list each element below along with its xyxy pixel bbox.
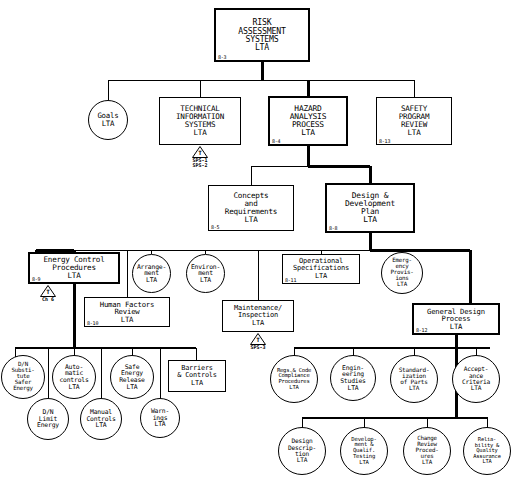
node-maint[interactable]: Maintenance/ Inspection LTA [222, 300, 294, 332]
node-auto[interactable]: Auto- matic controls LTA [52, 355, 96, 399]
node-manual[interactable]: Manual Controls LTA [80, 398, 122, 440]
node-code-energy: 8-9 [32, 277, 40, 282]
node-label-hazard: HAZARD ANALYSIS PROCESS LTA [290, 105, 326, 138]
fault-tree-diagram: RISK ASSESSMENT SYSTEMS LTA8-3Goals LTAT… [0, 0, 522, 485]
node-label-goals: Goals LTA [97, 112, 118, 127]
node-code-opspec: 8-11 [285, 278, 296, 283]
node-code-risk: 8-3 [218, 55, 226, 60]
transfer-reference: SPS-1 SPS-2 [192, 158, 207, 169]
transfer-symbol-tech-transfer[interactable]: TSPS-1 SPS-2 [192, 146, 208, 169]
node-energy[interactable]: Energy Control Procedures LTA8-9 [28, 252, 120, 284]
node-label-emerg: Emerg- ency Provis- ions LTA [390, 258, 413, 288]
transfer-letter: T [192, 150, 208, 156]
node-tech[interactable]: TECHNICAL INFORMATION SYSTEMS LTA [159, 97, 241, 145]
transfer-symbol-energy-transfer[interactable]: TCh 6 [40, 285, 56, 302]
node-label-energy: Energy Control Procedures LTA [43, 256, 104, 279]
node-barriers[interactable]: Barriers & Controls LTA [168, 360, 226, 392]
transfer-reference: Ch 6 [42, 297, 54, 302]
node-warn[interactable]: Warn- ings LTA [140, 398, 180, 438]
connector-lines [0, 0, 522, 485]
node-label-engstud: Engin- eering Studies LTA [340, 365, 366, 391]
node-human[interactable]: Human Factors Review LTA8-10 [84, 297, 170, 327]
triangle-icon: T [192, 146, 208, 158]
node-label-environ: Environ- ment LTA [191, 264, 220, 284]
node-devqual[interactable]: Develop- ment & Qualif. Testing LTA [340, 427, 388, 475]
node-label-safety: SAFETY PROGRAM REVIEW LTA [399, 105, 430, 136]
transfer-reference: SPS-3 [250, 345, 265, 350]
node-dnsub[interactable]: D/N Substi- tute Safer Energy [1, 355, 45, 399]
node-label-tech: TECHNICAL INFORMATION SYSTEMS LTA [176, 105, 224, 136]
node-label-manual: Manual Controls LTA [86, 409, 115, 429]
node-dnlimit[interactable]: D/N Limit Energy [27, 398, 69, 440]
node-relqa[interactable]: Relia- bility & Quality Assurance LTA [463, 427, 511, 475]
node-regs[interactable]: Regs.& Code Compliance Procedures LTA [270, 355, 318, 403]
triangle-icon: T [250, 333, 266, 345]
node-label-saferel: Safe Energy Release LTA [119, 364, 145, 390]
node-code-gendesign: 8-12 [416, 328, 427, 333]
node-label-standard: Standard- ization of Parts LTA [399, 367, 430, 392]
node-label-arrange: Arrange- ment LTA [137, 264, 166, 284]
node-label-barriers: Barriers & Controls LTA [177, 365, 217, 386]
node-accept[interactable]: Accept- ance Criteria LTA [452, 355, 500, 403]
node-label-human: Human Factors Review LTA [100, 301, 155, 324]
node-label-devqual: Develop- ment & Qualif. Testing LTA [351, 437, 376, 466]
node-desdesc[interactable]: Design Descrip- tion LTA [278, 427, 326, 475]
transfer-letter: T [40, 289, 56, 295]
node-engstud[interactable]: Engin- eering Studies LTA [330, 355, 376, 401]
node-label-change: Change Review Proced- ures LTA [415, 436, 438, 466]
node-label-dnlimit: D/N Limit Energy [37, 409, 59, 429]
node-arrange[interactable]: Arrange- ment LTA [132, 254, 171, 293]
node-label-warn: Warn- ings LTA [151, 408, 169, 428]
node-label-accept: Accept- ance Criteria LTA [462, 366, 490, 392]
node-code-concepts: 8-5 [211, 225, 219, 230]
node-environ[interactable]: Environ- ment LTA [186, 254, 225, 293]
node-label-design: Design & Development Plan LTA [345, 192, 395, 225]
node-label-gendesign: General Design Process LTA [427, 308, 485, 330]
node-safety[interactable]: SAFETY PROGRAM REVIEW LTA8-13 [376, 97, 452, 145]
node-gendesign[interactable]: General Design Process LTA8-12 [412, 303, 500, 335]
node-label-regs: Regs.& Code Compliance Procedures LTA [277, 368, 311, 391]
node-emerg[interactable]: Emerg- ency Provis- ions LTA [381, 252, 423, 294]
node-label-maint: Maintenance/ Inspection LTA [234, 305, 282, 327]
node-code-human: 8-10 [87, 321, 98, 326]
node-standard[interactable]: Standard- ization of Parts LTA [390, 355, 438, 403]
node-hazard[interactable]: HAZARD ANALYSIS PROCESS LTA8-4 [268, 96, 348, 146]
node-label-risk: RISK ASSESSMENT SYSTEMS LTA [238, 18, 285, 52]
node-code-hazard: 8-4 [272, 139, 280, 144]
node-label-relqa: Relia- bility & Quality Assurance LTA [473, 437, 500, 465]
triangle-icon: T [40, 285, 56, 297]
node-label-concepts: Concepts and Requirements LTA [225, 192, 277, 223]
node-label-dnsub: D/N Substi- tute Safer Energy [11, 362, 34, 392]
node-label-desdesc: Design Descrip- tion LTA [288, 438, 316, 464]
node-saferel[interactable]: Safe Energy Release LTA [110, 355, 154, 399]
transfer-symbol-maint-transfer[interactable]: TSPS-3 [250, 333, 266, 350]
node-opspec[interactable]: Operational Specifications LTA8-11 [282, 254, 360, 284]
node-code-design: 8-8 [329, 226, 337, 231]
node-design[interactable]: Design & Development Plan LTA8-8 [325, 183, 415, 233]
node-code-safety: 8-13 [379, 139, 390, 144]
transfer-letter: T [250, 337, 266, 343]
node-label-auto: Auto- matic controls LTA [59, 364, 88, 390]
node-goals[interactable]: Goals LTA [88, 100, 128, 140]
node-concepts[interactable]: Concepts and Requirements LTA8-5 [208, 185, 294, 231]
node-label-opspec: Operational Specifications LTA [293, 258, 349, 280]
node-risk[interactable]: RISK ASSESSMENT SYSTEMS LTA8-3 [214, 8, 310, 62]
node-change[interactable]: Change Review Proced- ures LTA [403, 427, 451, 475]
